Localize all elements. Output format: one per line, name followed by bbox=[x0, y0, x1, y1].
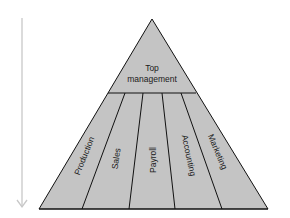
top-management-label-line2: management bbox=[127, 74, 177, 84]
segment-label-payroll: Payroll bbox=[148, 147, 158, 173]
pyramid-shape bbox=[39, 19, 268, 209]
down-arrow-icon bbox=[17, 18, 27, 207]
top-management-label-line1: Top bbox=[145, 63, 159, 73]
pyramid-diagram: Top management Production Sales Payroll … bbox=[0, 0, 290, 218]
